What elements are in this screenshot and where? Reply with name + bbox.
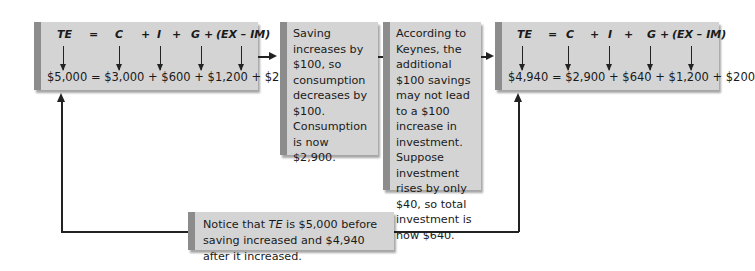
step-text-saving: Saving increases by $100, so consumption… [293, 26, 372, 166]
down-arrow-icon [568, 46, 569, 70]
label-c: C [566, 28, 574, 41]
down-arrow-icon [241, 46, 242, 70]
label-te: TE [57, 28, 72, 41]
label-plus: + [624, 28, 633, 41]
note-box: Notice that TE is $5,000 before saving i… [188, 212, 394, 250]
down-arrow-icon [522, 46, 523, 70]
equation-box-before: TE = C + I + G + (EX – IM) $5,000 = $3,0… [34, 22, 258, 90]
equation-values-before: $5,000 = $3,000 + $600 + $1,200 + $200 [47, 70, 294, 84]
connector-line [61, 231, 201, 233]
label-plus: + [172, 28, 181, 41]
right-arrow-icon [486, 52, 494, 60]
label-net-exports: (EX – IM) [672, 28, 726, 41]
label-g: G [647, 28, 656, 41]
label-c: C [115, 28, 123, 41]
right-arrow-icon [269, 52, 277, 60]
down-arrow-icon [160, 46, 161, 70]
label-plus: + [660, 28, 669, 41]
down-arrow-icon [609, 46, 610, 70]
down-arrow-icon [650, 46, 651, 70]
equation-box-after: TE = C + I + G + (EX – IM) $4,940 = $2,9… [495, 22, 719, 90]
note-te: TE [269, 218, 283, 231]
down-arrow-icon [63, 46, 64, 70]
label-i: I [157, 28, 161, 41]
down-arrow-icon [691, 46, 692, 70]
label-net-exports: (EX – IM) [216, 28, 270, 41]
connector-line [518, 101, 520, 232]
label-eq: = [548, 28, 557, 41]
connector-line [61, 101, 63, 232]
label-i: I [608, 28, 612, 41]
equation-values-after: $4,940 = $2,900 + $640 + $1,200 + $200 [508, 70, 755, 84]
label-te: TE [517, 28, 532, 41]
down-arrow-icon [201, 46, 202, 70]
connector-line [393, 231, 519, 233]
label-plus: + [590, 28, 599, 41]
step-text-keynes: According to Keynes, the additional $100… [396, 26, 475, 243]
label-plus: + [204, 28, 213, 41]
step-box-keynes: According to Keynes, the additional $100… [383, 22, 481, 190]
label-eq: = [89, 28, 98, 41]
label-g: G [191, 28, 200, 41]
label-plus: + [141, 28, 150, 41]
note-prefix: Notice that [203, 218, 269, 231]
down-arrow-icon [119, 46, 120, 70]
step-box-saving: Saving increases by $100, so consumption… [280, 22, 378, 155]
